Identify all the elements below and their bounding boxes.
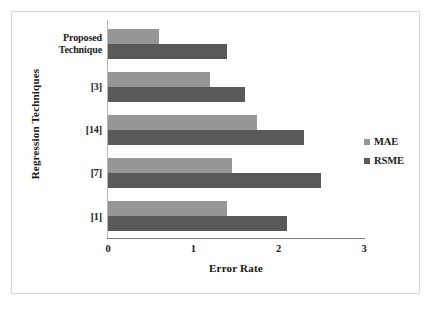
bar-mae: [108, 115, 257, 130]
x-tick-label: 3: [349, 243, 379, 254]
bar-rsme: [108, 216, 287, 231]
legend-swatch-icon: [364, 139, 370, 145]
bar-group: [108, 152, 364, 195]
bar-rsme: [108, 44, 227, 59]
bar-rsme: [108, 130, 304, 145]
x-axis-title: Error Rate: [108, 262, 364, 274]
bar-mae: [108, 29, 159, 44]
x-tick-label: 1: [178, 243, 208, 254]
legend-item: RSME: [364, 151, 424, 170]
legend-swatch-icon: [364, 158, 370, 164]
x-axis-line: [107, 238, 365, 239]
x-tick-label: 2: [264, 243, 294, 254]
legend-label: RSME: [374, 155, 404, 166]
bar-mae: [108, 158, 232, 173]
bar-rsme: [108, 173, 321, 188]
bar-group: [108, 22, 364, 65]
bar-group: [108, 65, 364, 108]
chart-legend: MAERSME: [364, 132, 424, 170]
chart-figure: ProposedTechnique[3][14][7][1] 0123 Erro…: [0, 0, 433, 310]
legend-label: MAE: [374, 136, 398, 147]
bar-mae: [108, 201, 227, 216]
bar-group: [108, 195, 364, 238]
plot-area: [108, 22, 364, 238]
bar-rsme: [108, 87, 245, 102]
x-tick-label: 0: [93, 243, 123, 254]
bar-group: [108, 108, 364, 151]
bar-mae: [108, 72, 210, 87]
legend-item: MAE: [364, 132, 424, 151]
y-axis-title: Regression Techniques: [29, 29, 41, 219]
